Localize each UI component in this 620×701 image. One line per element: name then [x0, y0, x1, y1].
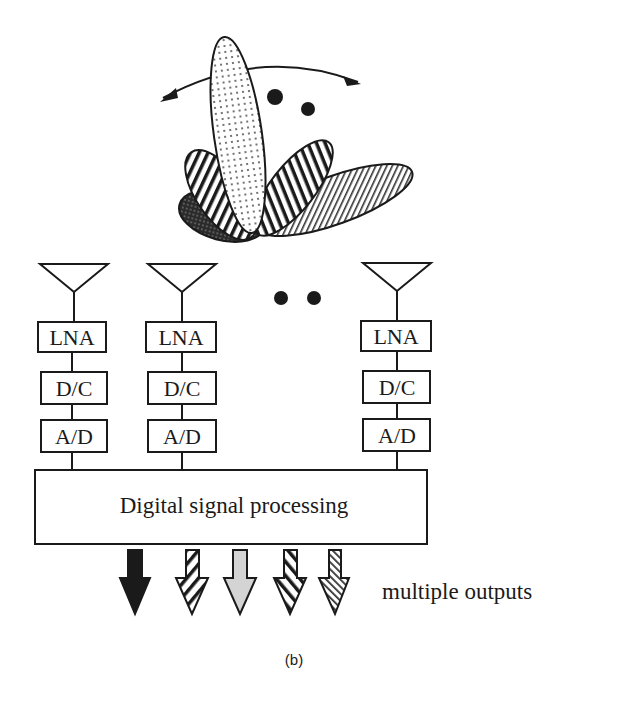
output-arrows: [120, 550, 349, 614]
antenna-icon: [148, 264, 216, 292]
dsp-block: Digital signal processing: [35, 470, 427, 544]
figure-caption: (b): [285, 651, 303, 668]
lna-label: LNA: [49, 325, 94, 350]
multiple-outputs-label: multiple outputs: [382, 579, 532, 604]
rf-chain-2: LNA D/C A/D: [146, 264, 216, 470]
dc-label: D/C: [379, 375, 416, 400]
output-arrow-gray-icon: [224, 550, 256, 614]
ellipsis-dot-icon: [267, 89, 283, 105]
output-arrow-solid-icon: [120, 550, 150, 614]
ad-label: A/D: [163, 424, 201, 449]
lna-label: LNA: [158, 325, 203, 350]
output-arrow-striped-icon: [176, 550, 208, 614]
ad-label: A/D: [55, 424, 93, 449]
antenna-icon: [363, 263, 431, 291]
rf-chain-3: LNA D/C A/D: [361, 263, 431, 470]
dsp-label: Digital signal processing: [120, 493, 349, 518]
ellipsis-dot-icon: [307, 291, 321, 305]
smart-antenna-diagram: LNA D/C A/D LNA D/C A/D LNA D/C A/D: [0, 0, 620, 701]
output-arrow-backstriped-icon: [274, 550, 306, 614]
antenna-icon: [40, 264, 108, 292]
ellipsis-dot-icon: [274, 291, 288, 305]
output-arrow-hatched-icon: [319, 550, 349, 614]
lna-label: LNA: [373, 324, 418, 349]
ellipsis-dot-icon: [301, 102, 315, 116]
dc-label: D/C: [164, 376, 201, 401]
ad-label: A/D: [378, 423, 416, 448]
dc-label: D/C: [56, 376, 93, 401]
beam-pattern: [172, 34, 421, 252]
steering-arrow-icon: [160, 67, 361, 102]
rf-chain-1: LNA D/C A/D: [38, 264, 108, 470]
